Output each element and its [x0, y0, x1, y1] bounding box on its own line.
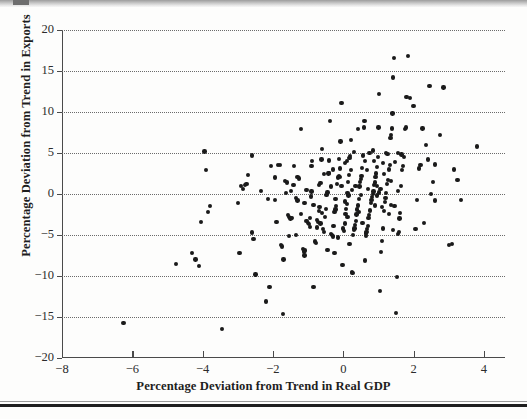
data-point [329, 184, 333, 188]
data-point [318, 221, 322, 225]
data-point [376, 125, 380, 129]
data-point [368, 208, 372, 212]
data-point [319, 157, 323, 161]
gridline-y-15 [62, 71, 505, 72]
data-point [396, 189, 400, 193]
data-point [244, 182, 248, 186]
data-point [345, 215, 349, 219]
data-point [398, 211, 402, 215]
data-point [406, 54, 410, 58]
data-point [193, 257, 197, 261]
x-tick-mark--6 [132, 351, 133, 357]
y-tick-mark-0 [57, 194, 62, 195]
x-tick-mark--4 [203, 351, 204, 357]
data-point [362, 125, 366, 129]
data-point [413, 227, 417, 231]
data-point [377, 190, 381, 194]
data-point [343, 221, 347, 225]
data-point [339, 184, 343, 188]
data-point [317, 183, 321, 187]
data-point [315, 225, 319, 229]
data-point [346, 193, 350, 197]
data-point [202, 149, 206, 153]
data-point [361, 153, 365, 157]
data-point [362, 119, 366, 123]
y-tick-label: −15 [16, 309, 54, 324]
data-point [246, 173, 250, 177]
data-point [395, 275, 399, 279]
x-tick-label: −2 [258, 362, 288, 377]
data-point [431, 180, 435, 184]
data-point [349, 138, 353, 142]
data-point [327, 158, 331, 162]
gridline-y-10 [62, 112, 505, 113]
data-point [325, 248, 329, 252]
data-point [391, 75, 395, 79]
data-point [389, 133, 393, 137]
data-point [317, 205, 321, 209]
data-point [299, 127, 303, 131]
data-point [332, 251, 336, 255]
data-point [367, 213, 371, 217]
data-point [365, 168, 369, 172]
data-point [273, 175, 277, 179]
data-point [314, 241, 318, 245]
data-point [351, 233, 355, 237]
data-point [287, 234, 291, 238]
data-point [356, 127, 360, 131]
data-point [267, 285, 271, 289]
data-point [251, 237, 255, 241]
data-point [237, 251, 241, 255]
scatter-chart: 20151050−5−10−15−20 −8−6−4−2024 Percenta… [0, 0, 527, 400]
data-point [383, 196, 387, 200]
data-point [347, 242, 351, 246]
gridline-y--10 [62, 276, 505, 277]
data-point [302, 253, 306, 257]
x-tick-label: −4 [188, 362, 218, 377]
data-point [375, 184, 379, 188]
x-tick-label: −6 [117, 362, 147, 377]
y-tick-mark--10 [57, 276, 62, 277]
x-tick-label: 4 [469, 362, 499, 377]
data-point [311, 203, 315, 207]
data-point [427, 84, 431, 88]
data-point [411, 104, 415, 108]
data-point [376, 155, 380, 159]
data-point [294, 233, 298, 237]
data-point [385, 182, 389, 186]
data-point [382, 172, 386, 176]
data-point [381, 161, 385, 165]
data-point [292, 164, 296, 168]
data-point [308, 225, 312, 229]
data-point [346, 180, 350, 184]
data-point [426, 157, 430, 161]
gridline-y-20 [62, 30, 505, 31]
data-point [354, 219, 358, 223]
data-point [396, 151, 400, 155]
data-point [328, 119, 332, 123]
x-tick-mark-4 [484, 351, 485, 357]
data-point [353, 223, 357, 227]
gridline-y--15 [62, 317, 505, 318]
data-point [303, 248, 307, 252]
data-point [322, 230, 326, 234]
data-point [342, 229, 346, 233]
data-point [391, 228, 395, 232]
data-point [333, 197, 337, 201]
x-tick-mark-2 [414, 351, 415, 357]
data-point [121, 321, 125, 325]
data-point [381, 226, 385, 230]
data-point [366, 187, 370, 191]
data-point [302, 201, 306, 205]
data-point [174, 262, 178, 266]
data-point [401, 164, 405, 168]
data-point [374, 171, 378, 175]
data-point [323, 215, 327, 219]
x-tick-mark--8 [62, 351, 63, 357]
data-point [360, 166, 364, 170]
data-point [343, 161, 347, 165]
data-point [190, 251, 194, 255]
data-point [383, 200, 387, 204]
data-point [408, 96, 412, 100]
data-point [357, 210, 361, 214]
